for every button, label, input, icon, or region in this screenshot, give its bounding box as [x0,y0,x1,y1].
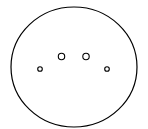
inner-dot-1 [38,67,43,72]
inner-dot-4 [105,67,110,72]
diagram-canvas [0,0,148,129]
outer-circle [11,7,137,127]
inner-dot-3 [83,53,89,59]
inner-dots-group [38,53,110,71]
inner-dot-2 [58,53,64,59]
